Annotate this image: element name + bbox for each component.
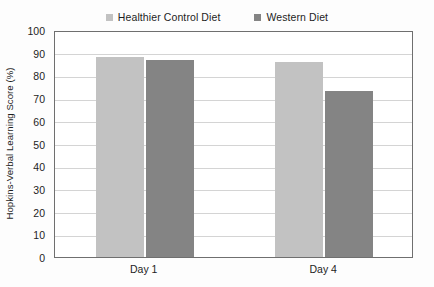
y-axis-tick-label: 70: [33, 93, 45, 105]
legend-swatch-icon-healthier-control-diet: [106, 14, 113, 21]
legend-label-healthier-control-diet: Healthier Control Diet: [118, 11, 221, 23]
y-axis-tick-label: 10: [33, 229, 45, 241]
y-axis-tick-label: 40: [33, 161, 45, 173]
bar: [275, 62, 323, 257]
y-axis-tick-label: 0: [39, 252, 45, 264]
bar: [96, 57, 144, 257]
bars-layer: [55, 32, 412, 257]
legend-swatch-icon-western-diet: [254, 14, 261, 21]
y-axis-tick-label: 50: [33, 139, 45, 151]
y-axis-tick-label: 90: [33, 48, 45, 60]
plot-area: [54, 31, 413, 258]
x-axis-tick-labels: Day 1Day 4: [54, 263, 413, 281]
legend-label-western-diet: Western Diet: [266, 11, 328, 23]
y-axis-tick-label: 30: [33, 184, 45, 196]
y-axis-tick-labels: 0102030405060708090100: [0, 31, 50, 258]
x-axis-tick-label: Day 1: [130, 263, 157, 275]
chart-legend: Healthier Control Diet Western Diet: [0, 9, 434, 25]
legend-item-healthier-control-diet: Healthier Control Diet: [106, 11, 221, 23]
bar: [325, 91, 373, 257]
y-axis-tick-label: 60: [33, 116, 45, 128]
y-axis-tick-label: 20: [33, 207, 45, 219]
y-axis-tick-label: 80: [33, 70, 45, 82]
y-axis-tick-label: 100: [27, 25, 45, 37]
x-axis-tick-label: Day 4: [310, 263, 337, 275]
legend-item-western-diet: Western Diet: [254, 11, 328, 23]
bar: [146, 60, 194, 257]
bar-chart-figure: Healthier Control Diet Western Diet Hopk…: [0, 0, 434, 287]
